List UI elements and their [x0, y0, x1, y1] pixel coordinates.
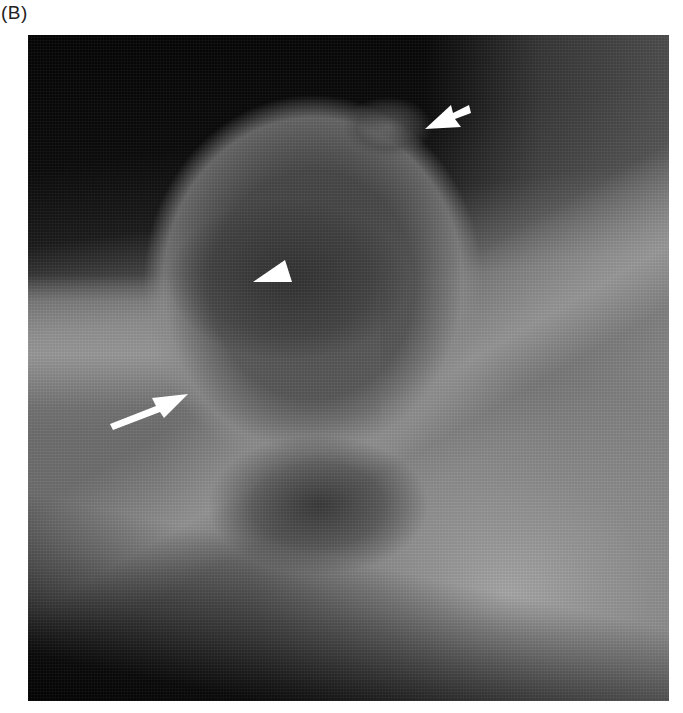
arrowhead-icon	[250, 255, 300, 290]
radiograph-image	[28, 35, 669, 701]
long-arrow-icon	[108, 390, 193, 435]
radiograph-texture	[28, 35, 669, 701]
short-arrow-icon	[423, 97, 483, 137]
panel-label: (B)	[1, 2, 28, 24]
